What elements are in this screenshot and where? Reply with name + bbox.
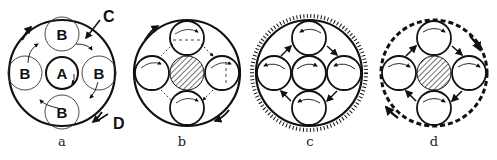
center-hatched	[170, 56, 204, 90]
figure-a: A B B B B C D	[0, 0, 130, 130]
figure-c-drawing	[245, 0, 375, 132]
label-b-top: B	[57, 26, 68, 43]
center-hatched	[417, 56, 451, 90]
figure-d-drawing	[370, 0, 497, 132]
caption-d: d	[424, 134, 444, 149]
label-b-left: B	[20, 65, 31, 82]
caption-b: b	[172, 134, 192, 149]
figure-b-drawing	[125, 0, 250, 130]
label-c: C	[103, 8, 115, 25]
center-gear	[292, 56, 326, 90]
figure-d	[370, 0, 497, 132]
figure-a-drawing: A B B B B C D	[0, 0, 130, 130]
label-b-bottom: B	[57, 104, 68, 121]
figure-c	[245, 0, 375, 132]
caption-a: a	[52, 134, 72, 149]
label-d: D	[113, 115, 125, 130]
figure-b	[125, 0, 250, 130]
caption-c: c	[300, 134, 320, 149]
label-b-right: B	[94, 65, 105, 82]
label-a: A	[57, 65, 68, 82]
